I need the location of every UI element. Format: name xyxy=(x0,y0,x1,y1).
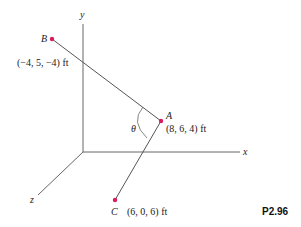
x-axis-label: x xyxy=(243,147,247,157)
line-AB xyxy=(52,39,161,121)
z-axis xyxy=(38,152,83,195)
point-A-coords: (8, 6, 4) ft xyxy=(166,124,206,134)
point-A-label: A xyxy=(166,111,172,121)
point-C xyxy=(113,198,117,202)
angle-theta-label: θ xyxy=(131,124,136,134)
point-C-label: C xyxy=(111,207,118,217)
z-axis-label: z xyxy=(30,195,34,205)
point-B-label: B xyxy=(41,34,47,44)
point-B-coords: (−4, 5, −4) ft xyxy=(17,58,69,68)
point-A xyxy=(159,119,163,123)
y-axis-label: y xyxy=(80,10,84,20)
angle-arc xyxy=(137,107,147,138)
point-B xyxy=(50,37,54,41)
point-C-coords: (6, 0, 6) ft xyxy=(127,207,167,217)
figure-id: P2.96 xyxy=(262,206,288,217)
line-AC xyxy=(115,121,161,200)
